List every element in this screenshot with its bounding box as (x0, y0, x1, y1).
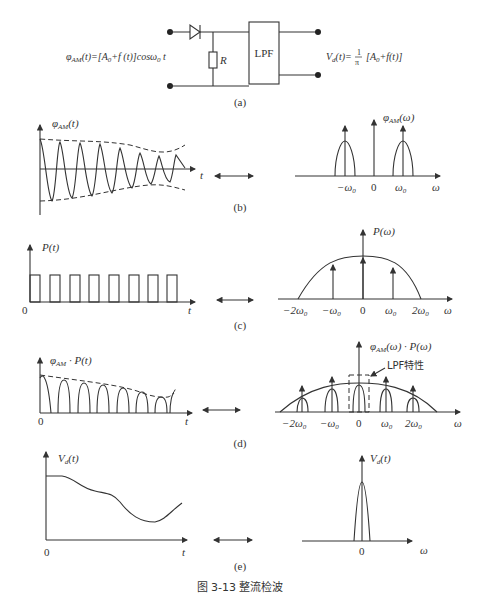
output-terminal-top (315, 29, 321, 35)
svg-text:−2ω0: −2ω0 (282, 417, 307, 431)
panel-d: φAM · P(t) 0 t φAM(ω) · P(ω) LPF特性 −2ω0 … (38, 340, 462, 450)
svg-text:−ω0: −ω0 (320, 417, 339, 431)
d-time-ylabel: φAM · P(t) (50, 354, 92, 368)
c-tick-neg-w0: −ω0 (322, 304, 341, 318)
output-terminal-bottom (315, 72, 321, 78)
svg-text:0: 0 (38, 415, 44, 427)
panel-e: Vd(t) 0 t Vd(t) 0 ω (e) (44, 452, 428, 573)
rectifier-detection-figure: R LPF φAM(t)=[A0+f (t)]cosω0 t Vd(t)= 1 … (0, 0, 480, 597)
panel-d-label: (d) (234, 437, 247, 450)
c-time-xlabel: t (188, 304, 192, 316)
figure-caption: 图 3-13 整流检波 (197, 580, 284, 594)
input-signal-label: φAM(t)=[A0+f (t)]cosω0 t (66, 51, 166, 64)
b-tick-neg-w0: −ω0 (337, 181, 356, 195)
pulse-train (30, 275, 177, 302)
diode-icon (190, 25, 200, 39)
panel-a-label: (a) (234, 96, 247, 109)
panel-c: P(t) 0 t P(ω) −2ω0 −ω0 0 ω0 2ω0 ω (c) (22, 225, 452, 332)
svg-text:0: 0 (356, 417, 362, 429)
e-time-ylabel: Vd(t) (58, 452, 79, 466)
d-freq-ylabel: φAM(ω) · P(ω) (370, 340, 432, 354)
b-tick-zero: 0 (371, 181, 377, 193)
c-time-ylabel: P(t) (41, 241, 59, 254)
svg-text:ω: ω (454, 417, 462, 429)
fraction-denominator: π (355, 58, 359, 67)
lpf-label: LPF (255, 47, 274, 59)
panel-e-label: (e) (234, 560, 247, 573)
c-freq-ylabel: P(ω) (372, 225, 395, 238)
svg-text:0: 0 (360, 304, 366, 316)
b-time-xlabel: t (200, 169, 204, 181)
svg-text:ω0: ω0 (381, 417, 393, 431)
svg-text:[A0+f(t)]: [A0+f(t)] (366, 51, 402, 64)
svg-text:ω: ω (444, 304, 452, 316)
svg-text:0: 0 (44, 546, 50, 558)
spectral-lobes (297, 377, 419, 412)
svg-text:ω: ω (420, 544, 428, 556)
svg-text:2ω0: 2ω0 (412, 304, 429, 318)
c-time-origin: 0 (22, 304, 28, 316)
svg-text:2ω0: 2ω0 (405, 417, 422, 431)
resistor-label: R (219, 54, 227, 66)
b-freq-xlabel: ω (432, 181, 440, 193)
output-signal-label: Vd(t)= (326, 51, 352, 64)
panel-c-label: (c) (234, 319, 247, 332)
b-tick-w0: ω0 (395, 181, 407, 195)
b-time-ylabel: φAM(t) (52, 117, 79, 131)
c-tick-neg-2w0: −2ω0 (283, 304, 308, 318)
panel-b: φAM(t) t φAM(ω) −ω0 0 ω0 ω (b) (40, 111, 440, 215)
b-freq-ylabel: φAM(ω) (383, 111, 415, 125)
svg-text:t: t (185, 415, 189, 427)
panel-b-label: (b) (234, 201, 247, 214)
resistor-icon (209, 52, 217, 68)
svg-text:t: t (182, 546, 186, 558)
lpf-characteristic-label: LPF特性 (387, 359, 424, 371)
fraction-numerator: 1 (357, 48, 361, 57)
svg-text:0: 0 (359, 545, 365, 557)
e-freq-ylabel: Vd(t) (370, 452, 391, 466)
circuit-diagram: R LPF φAM(t)=[A0+f (t)]cosω0 t Vd(t)= 1 … (66, 22, 402, 109)
svg-text:ω0: ω0 (385, 304, 397, 318)
